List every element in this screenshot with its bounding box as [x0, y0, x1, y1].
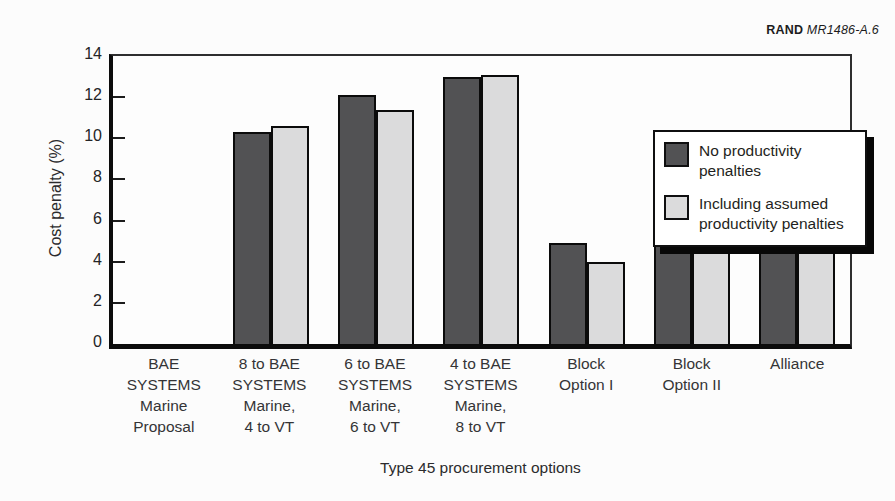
- legend-entry-no-penalties: No productivity penalties: [664, 141, 857, 181]
- bar-group: [639, 233, 744, 344]
- bar-pair: [654, 233, 730, 344]
- y-tick-label-0: 0: [58, 333, 102, 351]
- figure-number: MR1486-A.6: [807, 23, 879, 37]
- bar-light-4: [481, 75, 519, 344]
- legend-label: No productivity penalties: [699, 141, 857, 181]
- figure-source-label: RAND MR1486-A.6: [766, 23, 879, 37]
- y-tick-label-14: 14: [58, 45, 102, 63]
- legend: No productivity penalties Including assu…: [653, 130, 867, 247]
- bar-dark-6: [654, 233, 692, 344]
- y-tick-label-10: 10: [58, 127, 102, 145]
- category-label-7: Alliance: [744, 353, 850, 437]
- y-tick-label-8: 8: [58, 168, 102, 186]
- plot-area: No productivity penalties Including assu…: [109, 54, 852, 349]
- category-label-2: 8 to BAE SYSTEMS Marine, 4 to VT: [217, 353, 323, 437]
- category-label-6: Block Option II: [639, 353, 745, 437]
- category-label-5: Block Option I: [533, 353, 639, 437]
- bar-pair: [549, 243, 625, 344]
- bar-group: [324, 95, 429, 344]
- bar-dark-5: [549, 243, 587, 344]
- x-axis-title: Type 45 procurement options: [111, 459, 850, 477]
- bar-light-5: [587, 262, 625, 344]
- bar-light-3: [376, 110, 414, 344]
- bar-group: [534, 243, 639, 344]
- bar-group: [218, 126, 323, 344]
- x-axis-category-labels: BAE SYSTEMS Marine Proposal8 to BAE SYST…: [111, 353, 850, 437]
- y-tick-label-12: 12: [58, 86, 102, 104]
- y-tick-label-4: 4: [58, 251, 102, 269]
- bar-pair: [233, 126, 309, 344]
- bar-pair: [443, 75, 519, 344]
- bar-pair: [338, 95, 414, 344]
- category-label-1: BAE SYSTEMS Marine Proposal: [111, 353, 217, 437]
- bar-chart-figure: RAND MR1486-A.6 Cost penalty (%) 0246810…: [0, 0, 895, 501]
- bar-dark-4: [443, 77, 481, 344]
- legend-swatch-dark: [664, 142, 689, 167]
- category-label-4: 4 to BAE SYSTEMS Marine, 8 to VT: [428, 353, 534, 437]
- bar-group: [429, 75, 534, 344]
- y-tick-label-6: 6: [58, 210, 102, 228]
- y-tick-label-2: 2: [58, 292, 102, 310]
- bar-light-6: [692, 251, 730, 344]
- category-label-3: 6 to BAE SYSTEMS Marine, 6 to VT: [322, 353, 428, 437]
- bar-dark-2: [233, 132, 271, 344]
- legend-swatch-light: [664, 195, 689, 220]
- rand-brand: RAND: [766, 23, 803, 37]
- bar-dark-3: [338, 95, 376, 344]
- legend-entry-including-penalties: Including assumed productivity penalties: [664, 194, 857, 234]
- y-axis-tick-labels: 02468101214: [58, 54, 102, 342]
- bar-light-2: [271, 126, 309, 344]
- legend-label: Including assumed productivity penalties: [699, 194, 857, 234]
